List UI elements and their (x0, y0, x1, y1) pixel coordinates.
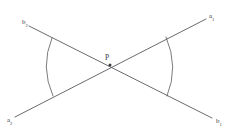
line-b2-b1 (29, 26, 212, 118)
vertex-point-p (109, 64, 112, 67)
ray-label-top-right: a1 (209, 12, 215, 22)
left-angle-arc (46, 38, 53, 96)
geometry-figure: P b2 a1 a2 b1 (0, 0, 239, 137)
vertex-label-p: P (105, 53, 109, 62)
ray-label-top-right-subscript: 1 (212, 17, 215, 22)
ray-label-bottom-right: b1 (216, 117, 223, 127)
right-angle-arc (166, 37, 173, 96)
ray-label-bottom-left-subscript: 2 (10, 121, 13, 126)
figure-canvas: P b2 a1 a2 b1 (0, 0, 239, 137)
ray-label-top-left: b2 (22, 18, 29, 28)
ray-label-bottom-right-subscript: 1 (220, 122, 223, 127)
ray-label-bottom-left: a2 (7, 116, 13, 126)
ray-label-top-left-subscript: 2 (26, 23, 29, 28)
